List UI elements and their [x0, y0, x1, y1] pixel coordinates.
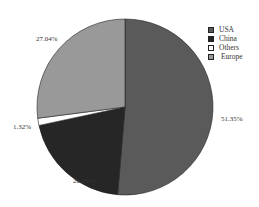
slice-label-china: 20.29%: [73, 177, 95, 185]
slice-label-others: 1.32%: [13, 123, 31, 131]
pie-slice-europe: [37, 19, 125, 118]
legend-swatch-china: [208, 36, 214, 42]
legend-swatch-others: [208, 45, 214, 51]
legend-label: China: [219, 34, 237, 43]
slice-label-usa: 51.35%: [221, 115, 243, 123]
pie-slice-usa: [118, 19, 213, 195]
legend-swatch-europe: [208, 54, 214, 60]
legend-label: Europe: [221, 52, 243, 61]
legend-item-usa: USA: [208, 25, 243, 34]
legend-swatch-usa: [208, 27, 214, 33]
legend-label: Others: [219, 43, 239, 52]
legend: USA China Others Europe: [208, 25, 243, 61]
legend-item-others: Others: [208, 43, 243, 52]
legend-label: USA: [219, 25, 234, 34]
legend-item-europe: Europe: [208, 52, 243, 61]
slice-label-europe: 27.04%: [36, 35, 58, 43]
legend-item-china: China: [208, 34, 243, 43]
